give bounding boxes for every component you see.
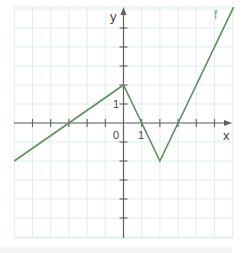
function-label-f: f <box>214 8 218 22</box>
y-unit-label: 1 <box>113 98 119 110</box>
x-unit-label: 1 <box>138 129 144 141</box>
bottom-band <box>0 246 232 253</box>
origin-label: 0 <box>113 129 119 141</box>
axes <box>14 7 232 238</box>
x-axis-label: x <box>223 128 230 143</box>
function-graph: y x 0 1 1 f <box>0 0 245 253</box>
y-axis-label: y <box>110 9 117 24</box>
